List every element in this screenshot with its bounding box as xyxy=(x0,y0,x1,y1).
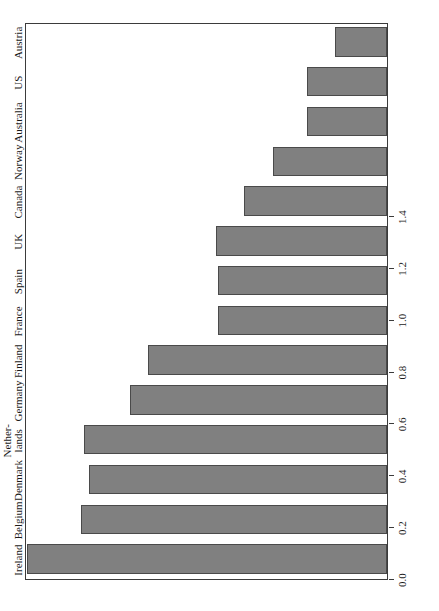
value-tick-mark xyxy=(389,579,394,580)
bar xyxy=(244,186,387,215)
bar xyxy=(130,385,387,414)
category-tick-label: Nether- lands xyxy=(2,424,24,457)
category-tick-label: Norway xyxy=(13,145,24,180)
category-tick-label: Austria xyxy=(13,27,24,59)
value-axis: 0.00.20.40.60.81.01.21.4 xyxy=(389,23,429,580)
value-tick-label: 0.8 xyxy=(396,366,408,380)
bar xyxy=(84,425,387,454)
value-tick-label: 0.6 xyxy=(396,418,408,432)
category-tick-label: Finland xyxy=(13,344,24,378)
category-axis: IrelandBelgiumDenmarkNether- landsGerman… xyxy=(0,23,25,580)
value-tick-mark xyxy=(389,216,394,217)
bar xyxy=(307,107,387,136)
category-tick-label: US xyxy=(13,76,24,90)
bar xyxy=(27,544,387,573)
category-tick-label: UK xyxy=(13,234,24,250)
category-tick-label: Spain xyxy=(13,269,24,294)
bar xyxy=(273,147,387,176)
value-tick-mark xyxy=(389,527,394,528)
category-tick-label: Belgium xyxy=(13,501,24,539)
value-tick-mark xyxy=(389,372,394,373)
bar xyxy=(218,266,387,295)
category-tick-label: Ireland xyxy=(13,545,24,576)
category-tick-label: Germany xyxy=(13,381,24,422)
bar xyxy=(216,226,387,255)
bar xyxy=(89,465,387,494)
bar xyxy=(218,306,387,335)
value-tick-label: 0.4 xyxy=(396,469,408,483)
category-tick-label: Australia xyxy=(13,102,24,142)
bar xyxy=(335,27,387,56)
category-tick-label: Denmark xyxy=(13,460,24,501)
value-tick-mark xyxy=(389,320,394,321)
category-tick-label: Canada xyxy=(13,186,24,219)
bar xyxy=(81,505,387,534)
chart-figure-rotator: IrelandBelgiumDenmarkNether- landsGerman… xyxy=(0,0,439,611)
plot-area xyxy=(25,23,388,580)
value-tick-mark xyxy=(389,268,394,269)
category-tick-label: France xyxy=(13,306,24,336)
bar xyxy=(148,345,387,374)
value-tick-mark xyxy=(389,475,394,476)
value-tick-label: 1.0 xyxy=(396,314,408,328)
bar xyxy=(307,67,387,96)
value-tick-mark xyxy=(389,423,394,424)
value-tick-label: 0.0 xyxy=(396,573,408,587)
bars-layer xyxy=(26,24,387,579)
value-tick-label: 1.4 xyxy=(396,210,408,224)
value-tick-label: 1.2 xyxy=(396,262,408,276)
value-tick-label: 0.2 xyxy=(396,521,408,535)
bar-chart-figure: IrelandBelgiumDenmarkNether- landsGerman… xyxy=(0,0,439,611)
